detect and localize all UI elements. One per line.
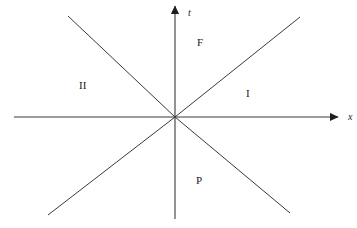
- region-labels-group: F I II P: [79, 36, 250, 186]
- lightcone-line-upper-left: [68, 16, 175, 117]
- t-axis-label: t: [188, 7, 191, 18]
- region-label-elsewhere-left: II: [79, 79, 87, 91]
- x-axis-label: x: [347, 111, 353, 122]
- axes-group: [14, 6, 338, 219]
- lightcone-lines-group: [48, 16, 300, 215]
- spacetime-diagram: x t F I II P: [0, 0, 357, 228]
- lightcone-line-lower-right: [175, 117, 290, 213]
- region-label-future: F: [197, 36, 203, 48]
- minkowski-diagram-svg: x t F I II P: [0, 0, 357, 228]
- axis-labels-group: x t: [188, 7, 353, 122]
- lightcone-line-upper-right: [175, 17, 300, 117]
- lightcone-line-lower-left: [48, 117, 175, 215]
- region-label-past: P: [196, 174, 202, 186]
- region-label-elsewhere-right: I: [246, 87, 250, 99]
